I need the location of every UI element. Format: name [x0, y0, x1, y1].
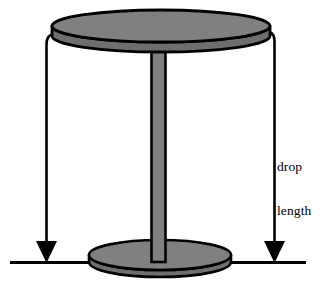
- table-top: [52, 10, 270, 52]
- table-top-face: [52, 10, 270, 42]
- table-stem: [152, 40, 166, 262]
- dimension-arrow-left: [36, 241, 57, 263]
- table-stem-body: [152, 40, 166, 262]
- dimension-line-left: [47, 34, 58, 245]
- drop-length-label-line1: drop: [277, 160, 311, 175]
- drop-length-diagram: drop length: [0, 0, 332, 299]
- dimension-line-right: [263, 31, 275, 245]
- drop-length-label: drop length: [277, 131, 311, 247]
- drop-length-label-line2: length: [277, 204, 311, 219]
